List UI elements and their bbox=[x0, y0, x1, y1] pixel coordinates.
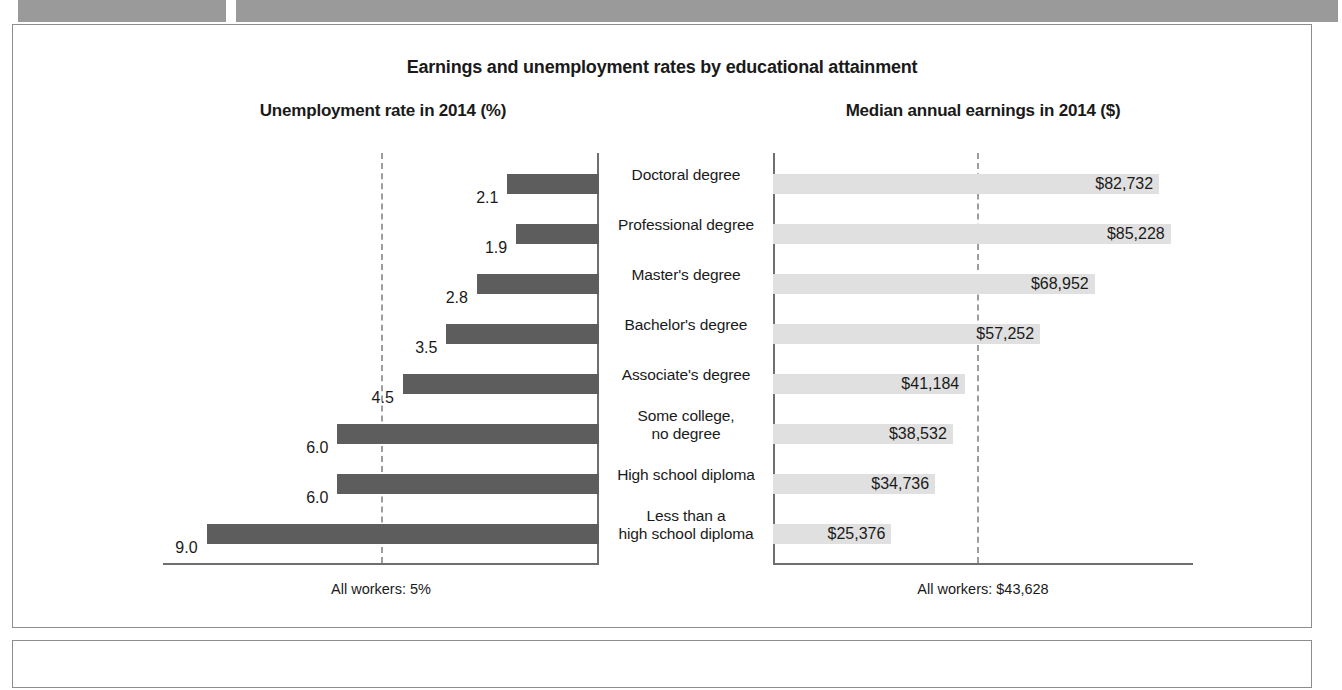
category-label: Bachelor's degree bbox=[599, 316, 773, 334]
category-row: Doctoral degree bbox=[599, 159, 773, 209]
category-label: Master's degree bbox=[599, 266, 773, 284]
unemployment-bar-row: 6.0 bbox=[163, 409, 599, 459]
category-row: Bachelor's degree bbox=[599, 309, 773, 359]
earnings-panel-subtitle: Median annual earnings in 2014 ($) bbox=[773, 101, 1193, 121]
unemployment-value-label: 2.8 bbox=[446, 288, 468, 308]
earnings-value-label: $82,732 bbox=[1095, 174, 1153, 194]
unemployment-bar: 2.1 bbox=[507, 174, 599, 194]
unemployment-value-label: 2.1 bbox=[476, 188, 498, 208]
earnings-plot: $82,732$85,228$68,952$57,252$41,184$38,5… bbox=[773, 153, 1193, 565]
earnings-bar: $38,532 bbox=[773, 424, 953, 444]
category-label: Less than ahigh school diploma bbox=[599, 507, 773, 543]
chart-panel: Earnings and unemployment rates by educa… bbox=[12, 24, 1312, 628]
earnings-bar-row: $68,952 bbox=[773, 259, 1193, 309]
category-row: Some college,no degree bbox=[599, 409, 773, 459]
unemployment-plot: 2.11.92.83.54.56.06.09.0 bbox=[163, 153, 599, 565]
category-label: Professional degree bbox=[599, 216, 773, 234]
category-label: Doctoral degree bbox=[599, 166, 773, 184]
earnings-bar: $82,732 bbox=[773, 174, 1159, 194]
unemployment-bar-row: 2.1 bbox=[163, 159, 599, 209]
header-bar-right bbox=[236, 0, 1338, 22]
category-label: Some college,no degree bbox=[599, 407, 773, 443]
category-row: High school diploma bbox=[599, 459, 773, 509]
chart-title: Earnings and unemployment rates by educa… bbox=[13, 57, 1311, 78]
secondary-panel bbox=[12, 640, 1312, 688]
earnings-bar: $68,952 bbox=[773, 274, 1095, 294]
earnings-bar-row: $82,732 bbox=[773, 159, 1193, 209]
unemployment-bar: 9.0 bbox=[207, 524, 599, 544]
unemployment-bar-row: 4.5 bbox=[163, 359, 599, 409]
earnings-bar-row: $41,184 bbox=[773, 359, 1193, 409]
unemployment-bar: 2.8 bbox=[477, 274, 599, 294]
unemployment-value-label: 1.9 bbox=[485, 238, 507, 258]
earnings-bar-row: $38,532 bbox=[773, 409, 1193, 459]
category-label-column: Doctoral degreeProfessional degreeMaster… bbox=[599, 153, 773, 565]
unemployment-axis-baseline bbox=[163, 563, 599, 565]
category-row: Professional degree bbox=[599, 209, 773, 259]
unemployment-bar-row: 3.5 bbox=[163, 309, 599, 359]
earnings-value-label: $68,952 bbox=[1031, 274, 1089, 294]
unemployment-bar: 1.9 bbox=[516, 224, 599, 244]
unemployment-bar: 4.5 bbox=[403, 374, 599, 394]
earnings-footnote: All workers: $43,628 bbox=[773, 581, 1193, 597]
earnings-value-label: $41,184 bbox=[901, 374, 959, 394]
category-label: High school diploma bbox=[599, 466, 773, 484]
unemployment-panel-subtitle: Unemployment rate in 2014 (%) bbox=[173, 101, 593, 121]
earnings-bar: $25,376 bbox=[773, 524, 891, 544]
earnings-bar-row: $57,252 bbox=[773, 309, 1193, 359]
earnings-bar: $41,184 bbox=[773, 374, 965, 394]
header-bar-left bbox=[18, 0, 226, 22]
unemployment-value-label: 6.0 bbox=[306, 438, 328, 458]
earnings-bar: $85,228 bbox=[773, 224, 1171, 244]
unemployment-bar-row: 1.9 bbox=[163, 209, 599, 259]
unemployment-value-label: 9.0 bbox=[175, 538, 197, 558]
earnings-bar: $57,252 bbox=[773, 324, 1040, 344]
earnings-value-label: $57,252 bbox=[976, 324, 1034, 344]
earnings-value-label: $85,228 bbox=[1107, 224, 1165, 244]
category-row: Master's degree bbox=[599, 259, 773, 309]
unemployment-bar-row: 9.0 bbox=[163, 509, 599, 559]
earnings-bar-row: $25,376 bbox=[773, 509, 1193, 559]
earnings-value-label: $34,736 bbox=[871, 474, 929, 494]
category-row: Associate's degree bbox=[599, 359, 773, 409]
unemployment-bar-row: 6.0 bbox=[163, 459, 599, 509]
unemployment-value-label: 4.5 bbox=[372, 388, 394, 408]
unemployment-bar: 3.5 bbox=[446, 324, 599, 344]
earnings-value-label: $38,532 bbox=[889, 424, 947, 444]
earnings-axis-baseline bbox=[773, 563, 1193, 565]
earnings-bar: $34,736 bbox=[773, 474, 935, 494]
unemployment-value-label: 6.0 bbox=[306, 488, 328, 508]
category-label: Associate's degree bbox=[599, 366, 773, 384]
unemployment-footnote: All workers: 5% bbox=[163, 581, 599, 597]
unemployment-bar: 6.0 bbox=[337, 424, 599, 444]
unemployment-bar: 6.0 bbox=[337, 474, 599, 494]
category-row: Less than ahigh school diploma bbox=[599, 509, 773, 559]
unemployment-bar-row: 2.8 bbox=[163, 259, 599, 309]
earnings-value-label: $25,376 bbox=[828, 524, 886, 544]
earnings-bar-row: $34,736 bbox=[773, 459, 1193, 509]
earnings-bar-row: $85,228 bbox=[773, 209, 1193, 259]
unemployment-value-label: 3.5 bbox=[415, 338, 437, 358]
